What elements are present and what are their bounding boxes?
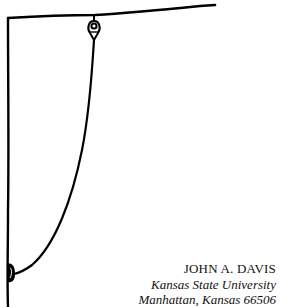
- rope: [14, 40, 94, 274]
- author-location: Manhattan, Kansas 66506: [138, 292, 276, 307]
- pulley-icon: [88, 21, 99, 40]
- knot-icon: [7, 264, 15, 283]
- author-institution: Kansas State University: [138, 277, 276, 293]
- wall-line: [8, 18, 9, 307]
- ceiling-beam: [8, 5, 215, 18]
- author-name: JOHN A. DAVIS: [138, 261, 276, 277]
- author-block: JOHN A. DAVIS Kansas State University Ma…: [138, 261, 276, 307]
